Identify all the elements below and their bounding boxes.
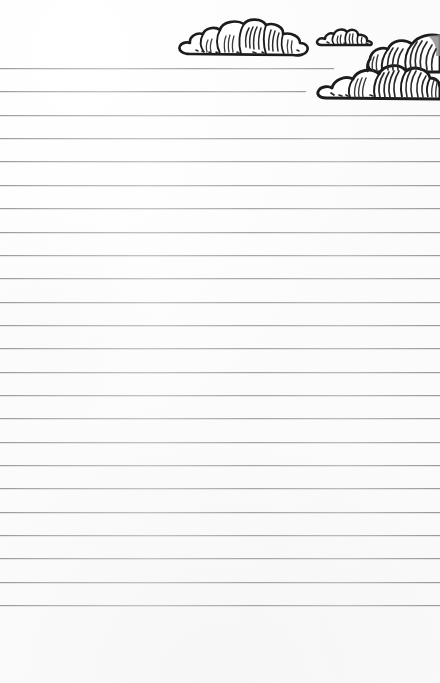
- ruled-line: [0, 558, 440, 559]
- ruled-line: [0, 68, 334, 69]
- ruled-line: [0, 395, 440, 396]
- ruled-line: [0, 325, 440, 326]
- ruled-line: [0, 278, 440, 279]
- ruled-line: [0, 185, 440, 186]
- ruled-line: [0, 161, 440, 162]
- paper-texture-overlay: [0, 0, 440, 683]
- ruled-line: [0, 208, 440, 209]
- ruled-line: [0, 348, 440, 349]
- ruled-line: [0, 138, 440, 139]
- ruled-line: [0, 372, 440, 373]
- cloud-large-right-icon: [318, 35, 440, 99]
- cloud-small-center-icon: [317, 30, 372, 45]
- ruled-line: [0, 465, 440, 466]
- ruled-line: [0, 605, 440, 606]
- ruled-line: [0, 255, 440, 256]
- ruled-line: [0, 232, 440, 233]
- ruled-line: [0, 91, 306, 92]
- cloud-illustration: [0, 0, 440, 120]
- cloud-medium-left-icon: [179, 20, 307, 56]
- ruled-line: [0, 115, 440, 116]
- ruled-line: [0, 512, 440, 513]
- writing-paper-sheet: [0, 0, 440, 683]
- ruled-line: [0, 418, 440, 419]
- ruled-line: [0, 488, 440, 489]
- ruled-line: [0, 535, 440, 536]
- ruled-line: [0, 302, 440, 303]
- ruled-line: [0, 442, 440, 443]
- ruled-line: [0, 582, 440, 583]
